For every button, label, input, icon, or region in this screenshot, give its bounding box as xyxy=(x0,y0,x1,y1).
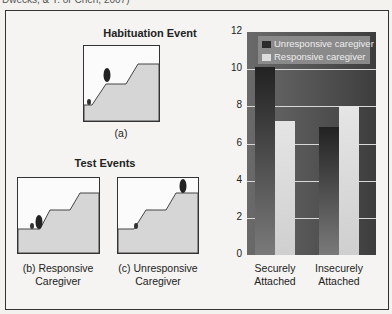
caption-responsive: (b) Responsive Caregiver xyxy=(8,262,108,288)
y-tick-label: 10 xyxy=(228,62,242,73)
y-tick-label: 8 xyxy=(228,99,242,110)
bar-responsive xyxy=(339,106,359,255)
y-tick-label: 6 xyxy=(228,137,242,148)
test-panel-unresponsive xyxy=(117,177,199,254)
x-tick-label: InsecurelyAttached xyxy=(304,262,374,288)
test-events-title: Test Events xyxy=(40,157,170,169)
y-tick-label: 12 xyxy=(228,25,242,36)
y-tick-label: 0 xyxy=(228,248,242,259)
habituation-title: Habituation Event xyxy=(90,27,210,39)
plot-area xyxy=(247,32,376,255)
habituation-caption: (a) xyxy=(90,127,152,140)
legend-label: Responsive caregiver xyxy=(274,51,365,62)
x-tick-label: SecurelyAttached xyxy=(240,262,310,288)
helper-shape-icon xyxy=(180,179,187,193)
hill-scene-illustration xyxy=(84,46,159,121)
helper-shape-icon xyxy=(104,68,111,82)
hill-scene-unresponsive xyxy=(118,178,198,253)
legend-item-unresponsive: Unresponsive caregiver xyxy=(262,38,374,49)
caption-line: Caregiver xyxy=(108,275,208,288)
climber-shape-icon xyxy=(30,223,34,229)
caption-line: (c) Unresponsive xyxy=(108,262,208,275)
caption-line: (b) Responsive xyxy=(8,262,108,275)
swatch-dark-icon xyxy=(262,41,271,48)
legend-item-responsive: Responsive caregiver xyxy=(262,51,365,62)
bar-unresponsive xyxy=(255,67,275,255)
y-tick-label: 2 xyxy=(228,211,242,222)
caption-unresponsive: (c) Unresponsive Caregiver xyxy=(108,262,208,288)
bar-responsive xyxy=(275,121,295,255)
caption-line: Caregiver xyxy=(8,275,108,288)
helper-shape-icon xyxy=(36,215,43,229)
test-panel-responsive xyxy=(17,177,100,254)
bar-unresponsive xyxy=(319,127,339,255)
legend: Unresponsive caregiver Responsive caregi… xyxy=(258,36,370,64)
legend-label: Unresponsive caregiver xyxy=(274,38,374,49)
y-tick-label: 4 xyxy=(228,174,242,185)
swatch-light-icon xyxy=(262,54,271,61)
habituation-panel xyxy=(83,45,160,122)
climber-shape-icon xyxy=(134,223,138,229)
climber-shape-icon xyxy=(87,99,91,105)
source-citation-fragment: Dwecks, & Y. or Chen, 2007) xyxy=(2,0,129,5)
hill-scene-responsive xyxy=(18,178,99,253)
